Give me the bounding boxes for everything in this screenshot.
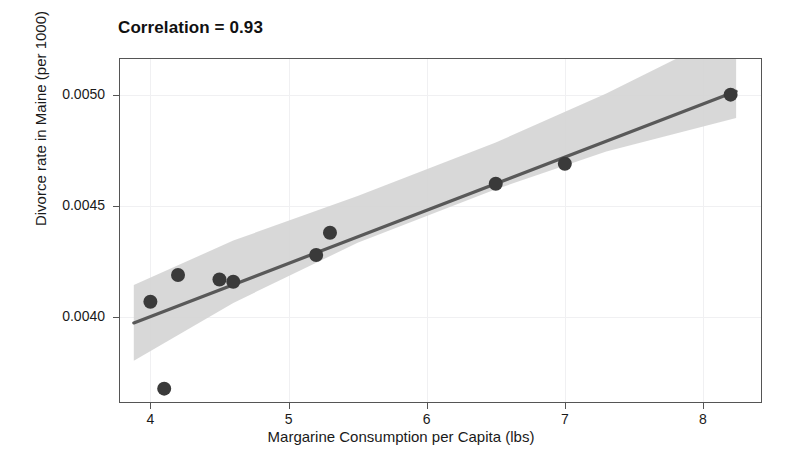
x-tick-label: 6 bbox=[407, 411, 447, 427]
x-axis-label: Margarine Consumption per Capita (lbs) bbox=[0, 428, 802, 445]
y-tick-label: 0.0040 bbox=[41, 308, 105, 324]
chart-figure: Correlation = 0.93 45678 0.00400.00450.0… bbox=[0, 0, 802, 468]
x-tick-label: 7 bbox=[545, 411, 585, 427]
y-tick-label: 0.0050 bbox=[41, 86, 105, 102]
x-tick-label: 5 bbox=[269, 411, 309, 427]
data-point bbox=[157, 382, 171, 396]
x-tick-label: 8 bbox=[683, 411, 723, 427]
data-point bbox=[489, 177, 503, 191]
x-tick-mark bbox=[150, 403, 151, 409]
y-tick-mark bbox=[113, 317, 119, 318]
x-tick-mark bbox=[565, 403, 566, 409]
data-point bbox=[309, 248, 323, 262]
y-axis-label: Divorce rate in Maine (per 1000) bbox=[32, 0, 49, 279]
data-point bbox=[143, 295, 157, 309]
y-tick-mark bbox=[113, 95, 119, 96]
data-point bbox=[171, 268, 185, 282]
y-tick-mark bbox=[113, 206, 119, 207]
x-tick-mark bbox=[703, 403, 704, 409]
data-point bbox=[724, 88, 738, 102]
chart-title: Correlation = 0.93 bbox=[118, 18, 263, 38]
plot-panel bbox=[119, 58, 762, 403]
data-point bbox=[226, 275, 240, 289]
x-tick-mark bbox=[289, 403, 290, 409]
x-tick-mark bbox=[427, 403, 428, 409]
x-tick-label: 4 bbox=[130, 411, 170, 427]
regression-line bbox=[134, 91, 736, 323]
confidence-band bbox=[134, 59, 736, 361]
data-point bbox=[323, 226, 337, 240]
plot-graphics bbox=[120, 59, 761, 402]
data-point bbox=[212, 273, 226, 287]
data-point bbox=[558, 157, 572, 171]
y-tick-label: 0.0045 bbox=[41, 197, 105, 213]
